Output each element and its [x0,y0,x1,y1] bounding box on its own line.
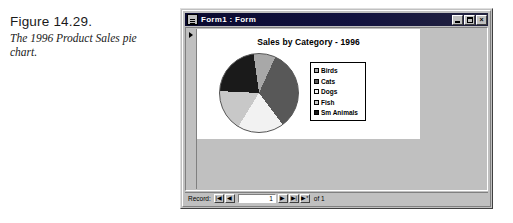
legend-swatch-icon [314,100,319,105]
window-control-buttons: × [452,15,488,25]
minimize-button[interactable] [452,15,463,25]
figure-number: Figure 14.29. [10,14,170,30]
legend-item-birds: Birds [314,66,362,75]
system-menu-icon[interactable] [187,14,198,25]
record-selector-arrow [189,32,193,38]
legend-item-dogs: Dogs [314,87,362,96]
legend-label: Fish [321,99,334,106]
chart-object-frame[interactable]: Sales by Category - 1996 BirdsCatsDogsFi… [197,29,420,139]
pie-chart [219,53,299,133]
legend-item-sm-animals: Sm Animals [314,108,362,117]
legend-swatch-icon [314,68,319,73]
access-form-window: Form1 : Form × Sales by Category - 1996 … [180,8,493,209]
record-selector-bar[interactable] [187,29,197,189]
legend-label: Cats [321,78,335,85]
close-button[interactable]: × [476,15,487,25]
window-title: Form1 : Form [201,15,256,24]
legend-label: Dogs [321,88,337,95]
previous-record-button[interactable]: ◀ [225,194,235,203]
legend-swatch-icon [314,89,319,94]
legend-label: Birds [321,67,338,74]
legend-item-cats: Cats [314,77,362,86]
last-record-button[interactable]: ▶| [289,194,299,203]
figure-description: The 1996 Product Sales pie chart. [10,32,160,59]
legend-swatch-icon [314,79,319,84]
first-record-button[interactable]: |◀ [214,194,224,203]
figure-caption: Figure 14.29. The 1996 Product Sales pie… [10,14,170,59]
next-record-button[interactable]: ▶ [278,194,288,203]
window-inner-frame: Form1 : Form × Sales by Category - 1996 … [182,10,491,207]
chart-legend: BirdsCatsDogsFishSm Animals [310,62,366,121]
current-record-input[interactable]: 1 [238,194,276,203]
legend-label: Sm Animals [321,109,358,116]
legend-item-fish: Fish [314,98,362,107]
close-icon: × [477,16,486,24]
chart-title: Sales by Category - 1996 [197,37,420,47]
maximize-button[interactable] [464,15,475,25]
record-count-label: of 1 [314,195,325,202]
record-navigator-label: Record: [188,195,211,202]
window-titlebar[interactable]: Form1 : Form × [185,13,488,26]
legend-swatch-icon [314,110,319,115]
record-navigator: Record: |◀ ◀ 1 ▶ ▶| ▶* of 1 [185,192,488,204]
new-record-button[interactable]: ▶* [300,194,310,203]
form-detail-section: Sales by Category - 1996 BirdsCatsDogsFi… [185,27,488,191]
